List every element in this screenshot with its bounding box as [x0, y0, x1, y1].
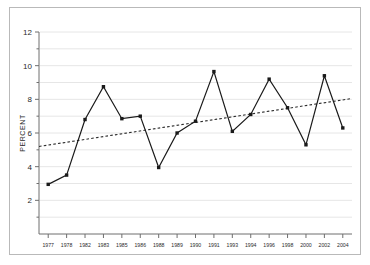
data-point-marker: [139, 114, 142, 117]
x-tick-label: 1996: [263, 242, 275, 248]
line-chart: 24681012 1977197819821983198519861988198…: [0, 0, 370, 265]
data-point-marker: [157, 166, 160, 169]
x-tick-label: 1990: [190, 242, 202, 248]
data-point-marker: [83, 118, 86, 121]
y-tick-label: 10: [23, 62, 32, 71]
y-axis-title: PERCENT: [19, 114, 26, 152]
x-tick-label: 1993: [227, 242, 239, 248]
y-tick-label: 6: [28, 129, 33, 138]
x-axis-ticks: [48, 234, 343, 238]
data-point-marker: [212, 70, 215, 73]
x-tick-label: 1983: [98, 242, 110, 248]
data-point-marker: [194, 120, 197, 123]
y-tick-label: 12: [23, 28, 32, 37]
x-tick-label: 1994: [245, 242, 257, 248]
chart-figure: 24681012 1977197819821983198519861988198…: [0, 0, 370, 265]
y-tick-label: 2: [28, 196, 33, 205]
x-tick-label: 1982: [79, 242, 91, 248]
x-tick-label: 1998: [282, 242, 294, 248]
data-point-markers: [47, 70, 345, 186]
x-tick-label: 1978: [61, 242, 73, 248]
x-tick-label: 1988: [153, 242, 165, 248]
x-tick-label: 1977: [42, 242, 54, 248]
x-tick-label: 1985: [116, 242, 128, 248]
data-point-marker: [267, 77, 270, 80]
x-tick-label: 2004: [337, 242, 349, 248]
data-point-marker: [65, 173, 68, 176]
y-axis-ticks: [35, 32, 39, 217]
x-tick-label: 2002: [319, 242, 331, 248]
data-point-marker: [231, 130, 234, 133]
data-point-marker: [120, 117, 123, 120]
data-point-marker: [323, 74, 326, 77]
gridlines-group: [40, 32, 352, 217]
x-tick-label: 1989: [171, 242, 183, 248]
data-line: [48, 72, 343, 185]
data-point-marker: [304, 143, 307, 146]
x-tick-label: 1991: [208, 242, 220, 248]
data-point-marker: [102, 85, 105, 88]
y-tick-label: 8: [28, 95, 33, 104]
y-tick-label: 4: [28, 163, 33, 172]
x-tick-label: 1986: [134, 242, 146, 248]
data-point-marker: [341, 126, 344, 129]
x-axis-tick-labels: 1977197819821983198519861988198919901991…: [42, 242, 348, 248]
data-point-marker: [249, 113, 252, 116]
data-point-marker: [47, 183, 50, 186]
data-point-marker: [175, 131, 178, 134]
data-point-marker: [286, 106, 289, 109]
x-tick-label: 2000: [300, 242, 312, 248]
